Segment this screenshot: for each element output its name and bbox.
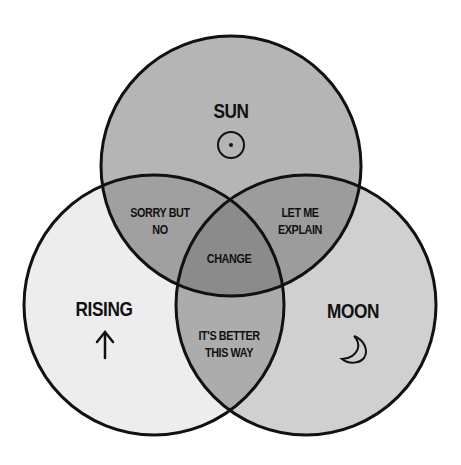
moon-label: MOON: [327, 299, 379, 323]
rising-label: RISING: [76, 297, 133, 321]
rising-moon-label: IT'S BETTER THIS WAY: [198, 327, 259, 361]
sun-moon-label: LET ME EXPLAIN: [278, 204, 322, 238]
venn-diagram: [0, 0, 461, 465]
sun-rising-label: SORRY BUT NO: [130, 204, 189, 238]
center-label: CHANGE: [207, 250, 251, 267]
sun-label: SUN: [213, 99, 248, 123]
